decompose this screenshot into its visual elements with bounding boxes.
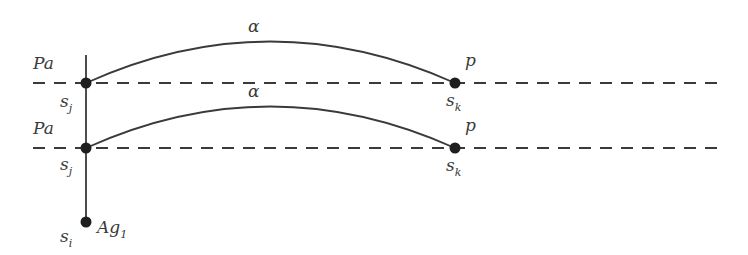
label-sk-2: sk xyxy=(446,155,462,179)
node-sj-level-2 xyxy=(81,143,92,154)
node-sj-level-1 xyxy=(81,78,92,89)
label-sj-2: sj xyxy=(60,154,73,178)
node-sk-level-1 xyxy=(450,78,461,89)
transition-arc-2 xyxy=(86,107,455,149)
node-si-root xyxy=(81,217,92,228)
label-sk-1: sk xyxy=(446,90,462,114)
node-sk-level-2 xyxy=(450,143,461,154)
label-p-2: p xyxy=(465,115,476,135)
label-alpha-2: α xyxy=(248,81,260,101)
label-pa-1: Pa xyxy=(32,53,54,73)
transition-arc-1 xyxy=(86,42,455,84)
label-pa-2: Pa xyxy=(32,118,54,138)
label-si-root: si xyxy=(60,226,72,250)
label-p-1: p xyxy=(465,50,476,70)
label-alpha-1: α xyxy=(248,16,260,36)
diagram-canvas: Pa α p sj sk Pa α p sj sk si Ag1 xyxy=(0,0,748,255)
label-sj-1: sj xyxy=(60,91,73,115)
label-agent: Ag1 xyxy=(95,217,127,241)
